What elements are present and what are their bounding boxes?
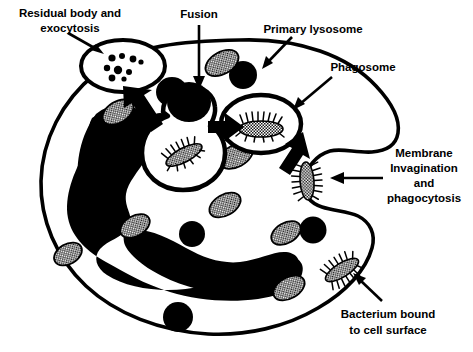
label-membrane-invagination-line2: Invagination xyxy=(390,162,458,174)
label-bacterium-bound-line1: Bacterium bound xyxy=(341,308,436,320)
diagram-canvas: Residual body and exocytosis Fusion Prim… xyxy=(0,0,473,352)
phagocytosis-diagram: Residual body and exocytosis Fusion Prim… xyxy=(0,0,473,352)
dark-granule xyxy=(117,142,143,168)
dark-granule xyxy=(179,221,205,247)
label-membrane-invagination-line4: phagocytosis xyxy=(387,192,461,204)
label-bacterium-bound-line2: to cell surface xyxy=(349,324,426,336)
label-membrane-invagination-line1: Membrane xyxy=(395,147,453,159)
dark-granule xyxy=(300,217,327,244)
label-residual-body-line1: Residual body and xyxy=(19,7,121,19)
dark-granule xyxy=(163,302,193,332)
label-fusion: Fusion xyxy=(180,8,218,20)
pointer-bacterium-bound xyxy=(353,273,382,301)
primary-lysosome-fusing xyxy=(167,82,211,122)
pointer-membrane-invagination xyxy=(330,172,383,184)
label-membrane-invagination-line3: and xyxy=(414,177,434,189)
label-phagosome: Phagosome xyxy=(330,61,395,73)
label-residual-body-line2: exocytosis xyxy=(40,22,99,34)
label-primary-lysosome: Primary lysosome xyxy=(263,23,362,35)
